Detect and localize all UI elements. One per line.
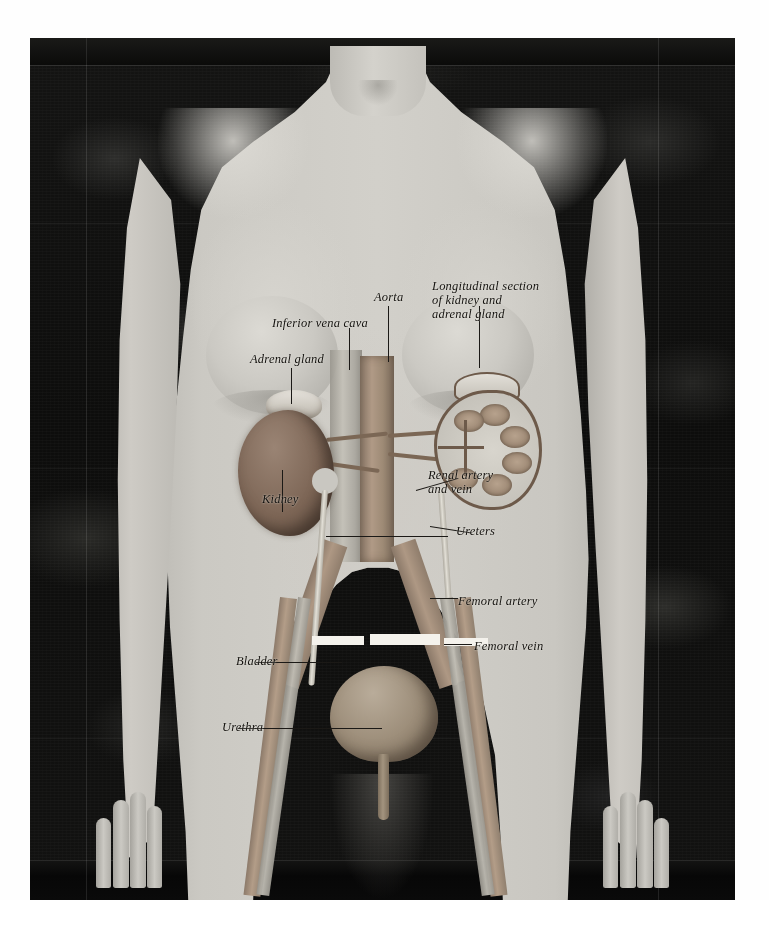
label-femoral-vein: Femoral vein: [474, 639, 543, 653]
label-aorta: Aorta: [374, 290, 403, 304]
page-bottom-margin: [0, 900, 769, 947]
leader-femoral-vein: [444, 644, 472, 645]
label-femoral-artery: Femoral artery: [458, 594, 538, 608]
leader-ureters-cross: [326, 536, 448, 537]
highlight-band: [312, 636, 364, 645]
urethra: [378, 754, 389, 820]
renal-pyramid: [480, 404, 510, 426]
photographic-plate: Inferior vena cava Aorta Longitudinal se…: [30, 38, 735, 900]
label-longitudinal-section: Longitudinal section of kidney and adren…: [432, 279, 539, 321]
page-root: Inferior vena cava Aorta Longitudinal se…: [0, 0, 769, 947]
label-inferior-vena-cava: Inferior vena cava: [272, 316, 368, 330]
label-renal-artery-vein: Renal artery and vein: [428, 468, 493, 496]
renal-pyramid: [502, 452, 532, 474]
label-urethra: Urethra: [222, 720, 263, 734]
anatomical-overlay: [30, 38, 735, 900]
renal-pyramid: [500, 426, 530, 448]
label-adrenal-gland: Adrenal gland: [250, 352, 324, 366]
leader-femoral-artery: [430, 598, 458, 599]
renal-calyx: [438, 446, 484, 449]
bladder: [330, 666, 438, 762]
aorta: [360, 356, 394, 562]
label-ureters: Ureters: [456, 524, 495, 538]
label-kidney: Kidney: [262, 492, 299, 506]
leader-adrenal-gland: [291, 368, 292, 404]
highlight-band: [370, 634, 440, 645]
inferior-vena-cava: [330, 350, 362, 562]
label-bladder: Bladder: [236, 654, 278, 668]
leader-inferior-vena-cava: [349, 328, 350, 370]
leader-aorta: [388, 306, 389, 362]
renal-pyramid: [454, 410, 484, 432]
